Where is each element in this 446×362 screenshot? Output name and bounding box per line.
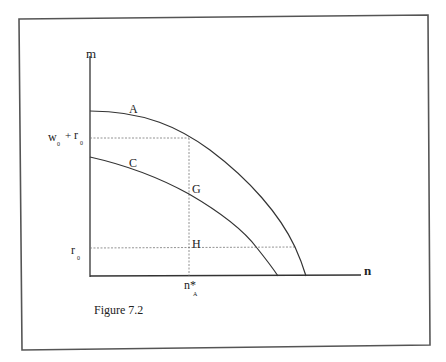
y-axis-label: m [86,46,96,61]
curve-c-label: C [129,156,137,170]
w0-r0-tick-label: w0+r0 [48,128,83,147]
curve-a-label: A [129,102,138,116]
x-axis-label: n [364,263,372,278]
n-star-tick-label: n*A [184,278,198,297]
figure-frame [19,15,430,350]
curve-c [90,157,278,276]
point-h-label: H [192,237,201,251]
figure-canvas: m n A C G H w0+r0 r0 n*A Figure 7.2 [0,0,446,362]
point-g-label: G [192,182,201,196]
x-axis [90,275,361,276]
figure-caption: Figure 7.2 [94,303,143,317]
r0-tick-label: r0 [71,243,80,261]
